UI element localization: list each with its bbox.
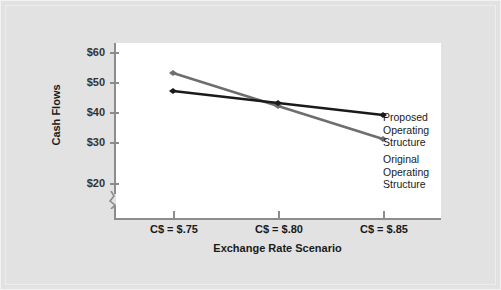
y-tick-60 xyxy=(110,52,119,54)
x-axis-title: Exchange Rate Scenario xyxy=(114,242,441,254)
legend-proposed-line2: Operating xyxy=(383,124,429,137)
y-tick-20 xyxy=(110,183,119,185)
legend-proposed-line1: Proposed xyxy=(383,111,429,124)
chart-figure: $60 $50 $40 $30 $20 C$ = $.75 C$ = $.80 … xyxy=(0,0,501,290)
x-tick-085 xyxy=(383,211,385,219)
x-tick-075 xyxy=(173,211,175,219)
legend-original-operating-structure: Original Operating Structure xyxy=(383,153,429,191)
x-tick-label-085: C$ = $.85 xyxy=(329,223,439,235)
legend-original-line2: Operating xyxy=(383,166,429,179)
legend-original-line3: Structure xyxy=(383,178,429,191)
axis-break-icon xyxy=(109,191,123,209)
x-tick-label-080: C$ = $.80 xyxy=(224,223,334,235)
y-tick-40 xyxy=(110,112,119,114)
y-tick-label-40: $40 xyxy=(69,107,105,118)
y-tick-50 xyxy=(110,82,119,84)
y-axis-title: Cash Flows xyxy=(50,55,62,175)
y-tick-labels: $60 $50 $40 $30 $20 xyxy=(63,1,105,231)
y-axis-line xyxy=(114,43,116,194)
y-tick-label-20: $20 xyxy=(69,178,105,189)
legend-proposed-operating-structure: Proposed Operating Structure xyxy=(383,111,429,149)
legend-original-line1: Original xyxy=(383,153,429,166)
y-tick-label-50: $50 xyxy=(69,77,105,88)
y-tick-30 xyxy=(110,142,119,144)
x-tick-080 xyxy=(278,211,280,219)
y-tick-label-30: $30 xyxy=(69,137,105,148)
legend-proposed-line3: Structure xyxy=(383,136,429,149)
x-tick-label-075: C$ = $.75 xyxy=(119,223,229,235)
y-tick-label-60: $60 xyxy=(69,47,105,58)
